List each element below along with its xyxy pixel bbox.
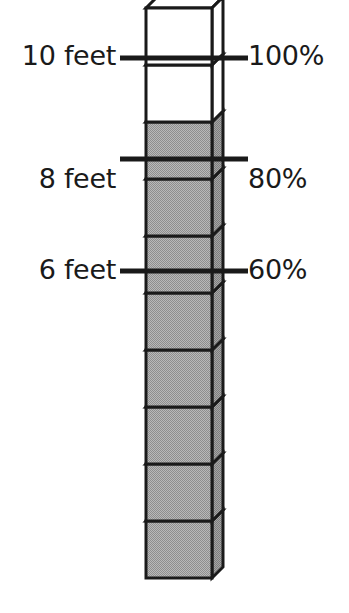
cube-front-face xyxy=(146,236,212,293)
cube-10-empty xyxy=(146,0,223,65)
tick-label-6-feet: 6 feet xyxy=(6,256,116,283)
cube-front-face xyxy=(146,407,212,464)
cube-side-face xyxy=(212,0,223,65)
cube-front-face xyxy=(146,179,212,236)
cube-stack xyxy=(146,0,223,578)
cube-front-face xyxy=(146,350,212,407)
cube-front-face xyxy=(146,122,212,179)
tick-label-80-percent: 80% xyxy=(248,165,348,192)
tick-label-8-feet: 8 feet xyxy=(6,165,116,192)
figure-canvas: 10 feet 100% 8 feet 80% 6 feet 60% xyxy=(0,0,349,613)
tick-label-10-feet: 10 feet xyxy=(6,42,116,69)
cube-front-face xyxy=(146,521,212,578)
cube-front-face xyxy=(146,293,212,350)
tick-label-60-percent: 60% xyxy=(248,256,348,283)
cube-front-face xyxy=(146,464,212,521)
tick-label-100-percent: 100% xyxy=(248,42,348,69)
cube-stack-diagram xyxy=(0,0,349,613)
cube-front-face xyxy=(146,65,212,122)
